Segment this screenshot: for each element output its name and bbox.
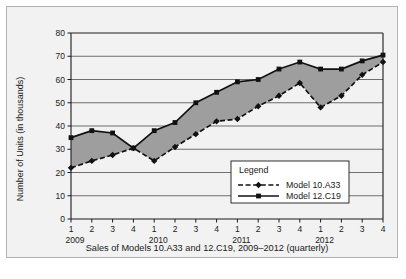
x-tick-label: 1 bbox=[235, 224, 240, 234]
x-tick-label: 4 bbox=[297, 224, 302, 234]
legend-entry-label: Model 10.A33 bbox=[286, 180, 340, 190]
y-tick-label: 0 bbox=[60, 214, 65, 224]
x-tick-label: 2 bbox=[173, 224, 178, 234]
x-tick-label: 4 bbox=[381, 224, 386, 234]
x-tick-label: 3 bbox=[360, 224, 365, 234]
y-axis-title: Number of Units (in thousands) bbox=[15, 77, 25, 202]
data-point-marker bbox=[360, 59, 365, 64]
legend-title: Legend bbox=[239, 165, 268, 175]
data-point-marker bbox=[339, 67, 344, 72]
x-tick-labels-group: 1234123412341234 bbox=[69, 224, 386, 234]
data-point-marker bbox=[152, 128, 157, 133]
y-tick-label: 20 bbox=[56, 168, 66, 178]
figure-frame: 01020304050607080 1234123412341234 20092… bbox=[6, 6, 398, 258]
legend-sample-marker bbox=[256, 194, 261, 199]
x-tick-label: 1 bbox=[69, 224, 74, 234]
series-difference-band bbox=[71, 55, 383, 168]
x-tick-label: 4 bbox=[131, 224, 136, 234]
y-tick-label: 50 bbox=[56, 98, 66, 108]
y-tick-labels-group: 01020304050607080 bbox=[56, 28, 66, 224]
x-tick-label: 3 bbox=[193, 224, 198, 234]
data-point-marker bbox=[318, 67, 323, 72]
data-point-marker bbox=[214, 90, 219, 95]
data-point-marker bbox=[277, 67, 282, 72]
chart-canvas: 01020304050607080 1234123412341234 20092… bbox=[7, 7, 399, 259]
x-tick-label: 1 bbox=[152, 224, 157, 234]
data-point-marker bbox=[173, 120, 178, 125]
data-point-marker bbox=[131, 146, 136, 151]
data-point-marker bbox=[235, 79, 240, 84]
x-tick-label: 3 bbox=[277, 224, 282, 234]
y-tick-label: 10 bbox=[56, 191, 66, 201]
data-point-marker bbox=[110, 131, 115, 136]
x-tick-label: 4 bbox=[214, 224, 219, 234]
y-tick-label: 40 bbox=[56, 121, 66, 131]
y-tick-label: 80 bbox=[56, 28, 66, 38]
x-tick-label: 2 bbox=[89, 224, 94, 234]
x-tick-label: 2 bbox=[256, 224, 261, 234]
data-point-marker bbox=[89, 128, 94, 133]
year-label: 2009 bbox=[66, 235, 85, 245]
x-tick-label: 3 bbox=[110, 224, 115, 234]
legend-entry-label: Model 12.C19 bbox=[286, 191, 341, 201]
chart-svg: 01020304050607080 1234123412341234 20092… bbox=[7, 7, 399, 259]
series-difference-band bbox=[71, 55, 383, 168]
chart-caption: Sales of Models 10.A33 and 12.C19, 2009–… bbox=[86, 243, 329, 253]
data-point-marker bbox=[256, 77, 261, 82]
x-tick-label: 1 bbox=[318, 224, 323, 234]
data-point-marker bbox=[297, 60, 302, 65]
y-tick-label: 60 bbox=[56, 75, 66, 85]
x-tick-label: 2 bbox=[339, 224, 344, 234]
legend[interactable]: Legend Model 10.A33Model 12.C19 bbox=[231, 161, 349, 203]
data-point-marker bbox=[193, 100, 198, 105]
y-tick-label: 30 bbox=[56, 144, 66, 154]
y-tick-label: 70 bbox=[56, 51, 66, 61]
